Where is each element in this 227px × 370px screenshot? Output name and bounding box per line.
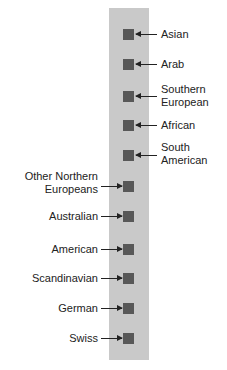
label-arab: Arab <box>161 58 184 71</box>
label-southern-european: Southern European <box>161 83 209 109</box>
label-german: German <box>58 302 98 315</box>
marker-square-icon <box>123 120 134 131</box>
label-line: European <box>161 96 209 109</box>
marker-square-icon <box>123 244 134 255</box>
arrow-right-icon <box>101 186 122 187</box>
arrow-left-icon <box>136 96 157 97</box>
arrow-right-icon <box>101 308 122 309</box>
label-line: Europeans <box>25 183 98 196</box>
marker-square-icon <box>123 181 134 192</box>
label-asian: Asian <box>161 28 189 41</box>
arrow-left-icon <box>136 64 157 65</box>
label-australian: Australian <box>49 210 98 223</box>
label-line: Scandinavian <box>32 272 98 285</box>
marker-square-icon <box>123 91 134 102</box>
label-swiss: Swiss <box>69 332 98 345</box>
marker-square-icon <box>123 333 134 344</box>
label-other-northern-europeans: Other Northern Europeans <box>25 170 98 196</box>
marker-square-icon <box>123 59 134 70</box>
label-line: American <box>52 243 98 256</box>
marker-square-icon <box>123 273 134 284</box>
label-scandinavian: Scandinavian <box>32 272 98 285</box>
marker-square-icon <box>123 303 134 314</box>
arrow-left-icon <box>136 155 157 156</box>
arrow-right-icon <box>101 278 122 279</box>
culture-scale-diagram: Asian Arab Southern European African Sou… <box>0 0 227 370</box>
label-south-american: South American <box>161 141 207 167</box>
arrow-right-icon <box>101 216 122 217</box>
label-line: American <box>161 154 207 167</box>
label-line: African <box>161 119 195 132</box>
label-line: German <box>58 302 98 315</box>
label-line: Australian <box>49 210 98 223</box>
arrow-left-icon <box>136 125 157 126</box>
label-line: Southern <box>161 83 209 96</box>
label-african: African <box>161 119 195 132</box>
arrow-right-icon <box>101 249 122 250</box>
marker-square-icon <box>123 29 134 40</box>
marker-square-icon <box>123 211 134 222</box>
marker-square-icon <box>123 150 134 161</box>
arrow-right-icon <box>101 338 122 339</box>
label-line: Swiss <box>69 332 98 345</box>
label-american: American <box>52 243 98 256</box>
label-line: Asian <box>161 28 189 41</box>
label-line: Other Northern <box>25 170 98 183</box>
label-line: Arab <box>161 58 184 71</box>
label-line: South <box>161 141 207 154</box>
arrow-left-icon <box>136 34 157 35</box>
